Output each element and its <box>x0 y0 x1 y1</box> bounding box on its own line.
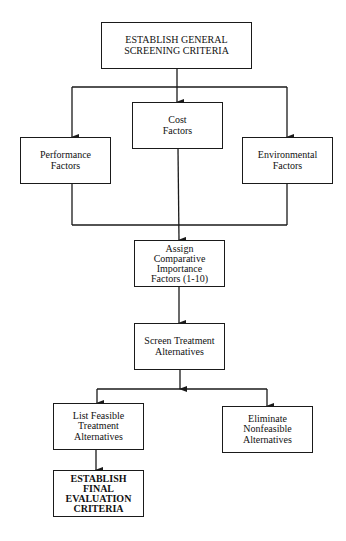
node-label: Assign Comparative Importance Factors (1… <box>151 244 208 284</box>
node-label: List Feasible Treatment Alternatives <box>73 411 124 443</box>
node-label: Environmental Factors <box>258 150 317 171</box>
node-cost-factors: Cost Factors <box>132 102 223 149</box>
node-establish-final-evaluation-criteria: ESTABLISH FINAL EVALUATION CRITERIA <box>53 470 144 517</box>
node-assign-comparative-importance: Assign Comparative Importance Factors (1… <box>134 240 225 287</box>
node-establish-general-screening-criteria: ESTABLISH GENERAL SCREENING CRITERIA <box>101 22 252 69</box>
node-eliminate-nonfeasible-alternatives: Eliminate Nonfeasible Alternatives <box>222 406 313 453</box>
node-label: Eliminate Nonfeasible Alternatives <box>243 414 292 446</box>
node-list-feasible-alternatives: List Feasible Treatment Alternatives <box>53 403 144 450</box>
node-label: Screen Treatment Alternatives <box>144 336 214 357</box>
node-performance-factors: Performance Factors <box>20 137 111 184</box>
node-label: ESTABLISH FINAL EVALUATION CRITERIA <box>66 474 132 514</box>
node-environmental-factors: Environmental Factors <box>242 137 333 184</box>
node-screen-treatment-alternatives: Screen Treatment Alternatives <box>134 323 225 370</box>
node-label: ESTABLISH GENERAL SCREENING CRITERIA <box>124 35 229 56</box>
node-label: Performance Factors <box>40 150 91 171</box>
node-label: Cost Factors <box>163 115 192 136</box>
